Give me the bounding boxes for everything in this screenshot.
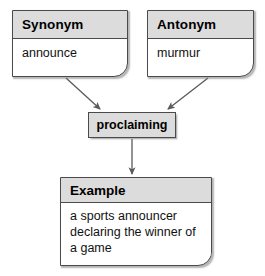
antonym-header-label: Antonym bbox=[157, 17, 216, 32]
synonym-header-label: Synonym bbox=[22, 17, 83, 32]
example-card-header: Example bbox=[61, 178, 211, 203]
synonym-card: Synonym announce bbox=[12, 10, 128, 77]
edge-antonym-to-term bbox=[168, 78, 208, 109]
term-label: proclaiming bbox=[97, 118, 168, 132]
example-card: Example a sports announcer declaring the… bbox=[60, 177, 212, 266]
term-box: proclaiming bbox=[88, 112, 176, 138]
synonym-value: announce bbox=[22, 46, 77, 60]
example-line: a game bbox=[70, 240, 205, 256]
synonym-card-header: Synonym bbox=[13, 11, 127, 39]
example-card-body: a sports announcer declaring the winner … bbox=[61, 203, 211, 256]
example-header-label: Example bbox=[70, 183, 126, 198]
example-line: a sports announcer bbox=[70, 208, 205, 224]
antonym-card-header: Antonym bbox=[148, 11, 253, 39]
example-line: declaring the winner of bbox=[70, 224, 205, 240]
antonym-card-body: murmur bbox=[148, 39, 253, 60]
diagram-canvas: Synonym announce Antonym murmur proclaim… bbox=[0, 0, 265, 276]
edge-synonym-to-term bbox=[66, 78, 100, 109]
antonym-card: Antonym murmur bbox=[147, 10, 254, 77]
synonym-card-body: announce bbox=[13, 39, 127, 60]
antonym-value: murmur bbox=[157, 46, 200, 60]
